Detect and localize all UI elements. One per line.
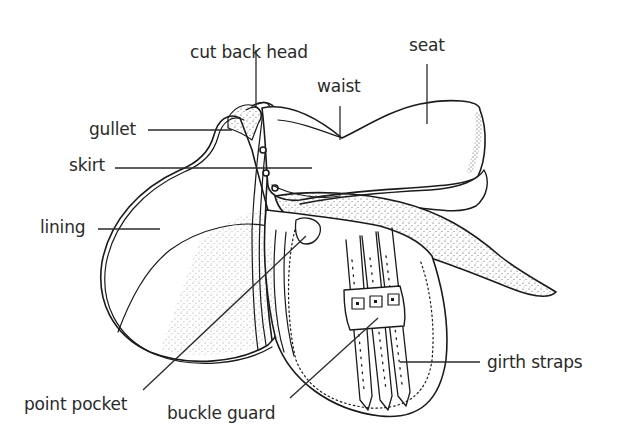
saddle-illustration [0, 0, 623, 444]
label-waist: waist [317, 78, 361, 95]
buckle-guard [344, 286, 405, 330]
saddle-diagram: cut back head seat waist gullet skirt li… [0, 0, 623, 444]
label-point-pocket: point pocket [24, 396, 127, 413]
label-skirt: skirt [69, 157, 105, 174]
label-cut-back-head: cut back head [190, 44, 308, 61]
label-girth-straps: girth straps [487, 354, 583, 371]
label-gullet: gullet [89, 121, 136, 138]
label-seat: seat [409, 37, 445, 54]
label-buckle-guard: buckle guard [167, 405, 275, 422]
label-lining: lining [40, 219, 85, 236]
